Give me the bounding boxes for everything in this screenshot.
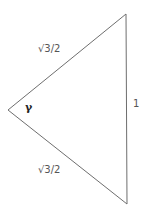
angle-gamma-label: γ xyxy=(25,101,32,114)
upper-side-label: √3/2 xyxy=(38,43,60,54)
lower-side-label: √3/2 xyxy=(38,164,60,175)
triangle-diagram xyxy=(0,0,147,214)
right-side-label: 1 xyxy=(133,98,139,109)
